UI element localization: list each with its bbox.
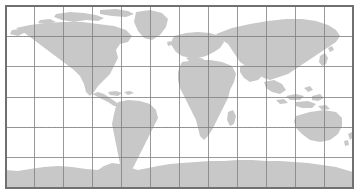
world-map-figure xyxy=(0,0,360,196)
world-map-svg xyxy=(0,0,360,196)
